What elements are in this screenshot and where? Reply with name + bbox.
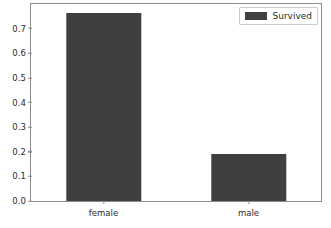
bar-female	[66, 13, 141, 201]
legend: Survived	[239, 7, 318, 25]
legend-label-survived: Survived	[272, 12, 312, 21]
y-tick-label: 0.0	[12, 197, 28, 206]
y-tick: 0.6	[12, 49, 31, 58]
y-tick-mark	[28, 176, 31, 177]
y-tick-label: 0.2	[12, 148, 28, 157]
figure-canvas: 0.00.10.20.30.40.50.60.7 femalemale Surv…	[0, 0, 331, 228]
bar-male	[211, 154, 286, 201]
x-tick-label: male	[238, 209, 259, 218]
y-tick: 0.0	[12, 197, 31, 206]
x-tick-mark	[248, 201, 249, 204]
y-tick-label: 0.3	[12, 123, 28, 132]
y-tick: 0.4	[12, 98, 31, 107]
y-tick: 0.2	[12, 148, 31, 157]
x-tick: female	[89, 201, 118, 217]
y-tick: 0.5	[12, 74, 31, 83]
y-tick: 0.1	[12, 172, 31, 181]
y-tick-mark	[28, 53, 31, 54]
legend-swatch-survived	[245, 12, 267, 20]
y-tick: 0.3	[12, 123, 31, 132]
y-tick-mark	[28, 151, 31, 152]
y-tick-label: 0.5	[12, 74, 28, 83]
y-tick-mark	[28, 102, 31, 103]
y-tick-mark	[28, 77, 31, 78]
x-tick-mark	[103, 201, 104, 204]
y-tick: 0.7	[12, 24, 31, 33]
y-tick-label: 0.7	[12, 24, 28, 33]
plot-area: 0.00.10.20.30.40.50.60.7 femalemale Surv…	[30, 3, 322, 202]
y-tick-label: 0.4	[12, 98, 28, 107]
y-tick-mark	[28, 200, 31, 201]
y-tick-label: 0.1	[12, 172, 28, 181]
y-tick-mark	[28, 28, 31, 29]
y-tick-mark	[28, 127, 31, 128]
x-tick-label: female	[89, 209, 118, 218]
x-tick: male	[238, 201, 259, 217]
y-tick-label: 0.6	[12, 49, 28, 58]
